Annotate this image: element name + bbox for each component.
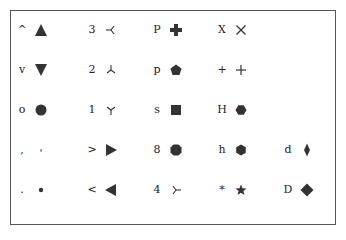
marker-cell: * [215,180,285,200]
marker-cell: , [15,140,85,160]
marker-cell: ^ [15,20,85,40]
point-icon [33,182,49,198]
marker-code-label: * [215,180,229,200]
x-thin-icon [233,22,249,38]
marker-code-label: 1 [85,100,99,120]
marker-code-label: o [15,100,29,120]
marker-code-label: + [215,60,229,80]
triangle-right-icon [103,142,119,158]
marker-cell: 3 [85,20,155,40]
plus-filled-icon [168,22,184,38]
tri-right-icon [168,182,184,198]
marker-cell: D [281,180,346,200]
marker-cell: X [215,20,285,40]
square-icon [168,102,184,118]
marker-cell: H [215,100,285,120]
marker-cell: p [150,60,220,80]
marker-cell: d [281,140,346,160]
marker-code-label: v [15,60,29,80]
marker-cell: v [15,60,85,80]
marker-cell: + [215,60,285,80]
triangle-up-icon [33,22,49,38]
marker-code-label: 2 [85,60,99,80]
marker-cell: 1 [85,100,155,120]
triangle-left-icon [103,182,119,198]
marker-code-label: h [215,140,229,160]
marker-cell: P [150,20,220,40]
marker-cell: 8 [150,140,220,160]
tri-down-icon [103,102,119,118]
marker-cell: o [15,100,85,120]
star-icon [233,182,249,198]
pentagon-icon [168,62,184,78]
circle-icon [33,102,49,118]
marker-cell: s [150,100,220,120]
marker-code-label: 3 [85,20,99,40]
marker-code-label: 8 [150,140,164,160]
marker-code-label: s [150,100,164,120]
plus-icon [233,62,249,78]
diamond-icon [299,182,315,198]
tri-left-icon [103,22,119,38]
marker-code-label: , [15,140,29,160]
marker-cell: > [85,140,155,160]
octagon-icon [168,142,184,158]
marker-cell: . [15,180,85,200]
marker-code-label: p [150,60,164,80]
marker-code-label: ^ [15,20,29,40]
hexagon2-icon [233,102,249,118]
marker-code-label: D [281,180,295,200]
hexagon1-icon [233,142,249,158]
marker-code-label: . [15,180,29,200]
triangle-down-icon [33,62,49,78]
marker-code-label: d [281,140,295,160]
marker-code-label: < [85,180,99,200]
marker-code-label: 4 [150,180,164,200]
marker-cell: h [215,140,285,160]
marker-cell: 4 [150,180,220,200]
marker-cell: < [85,180,155,200]
marker-code-label: X [215,20,229,40]
tri-up-icon [103,62,119,78]
thin-diamond-icon [299,142,315,158]
marker-code-label: H [215,100,229,120]
marker-code-label: P [150,20,164,40]
marker-code-label: > [85,140,99,160]
marker-cell: 2 [85,60,155,80]
pixel-icon [33,142,49,158]
